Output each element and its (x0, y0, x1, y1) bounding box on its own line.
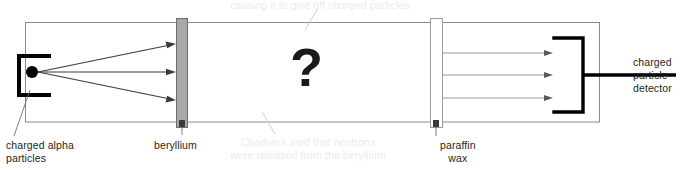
alpha-source-bracket (19, 56, 49, 95)
label-paraffin-wax: paraffin wax (440, 139, 476, 165)
beryllium-base-tick (179, 120, 185, 127)
alpha-particle-beams (38, 42, 176, 103)
annotation-top: causing it to give off charged particles (220, 0, 420, 12)
diagram-canvas: charged alpha particles beryllium paraff… (0, 0, 681, 170)
paraffin-wax-block (431, 19, 443, 128)
annotation-bottom: Chadwick said that neutrons were release… (228, 136, 388, 162)
beryllium-bar (177, 19, 188, 128)
label-charged-alpha-particles: charged alpha particles (6, 139, 74, 165)
unknown-radiation-question-mark: ? (290, 40, 323, 94)
alpha-source-dot (26, 66, 38, 78)
paraffin-wax-base-tick (433, 120, 439, 127)
label-leader-lines (14, 90, 436, 136)
label-charged-particle-detector: charged particle detector (633, 56, 672, 95)
label-beryllium: beryllium (154, 139, 197, 152)
proton-beams (442, 50, 553, 101)
